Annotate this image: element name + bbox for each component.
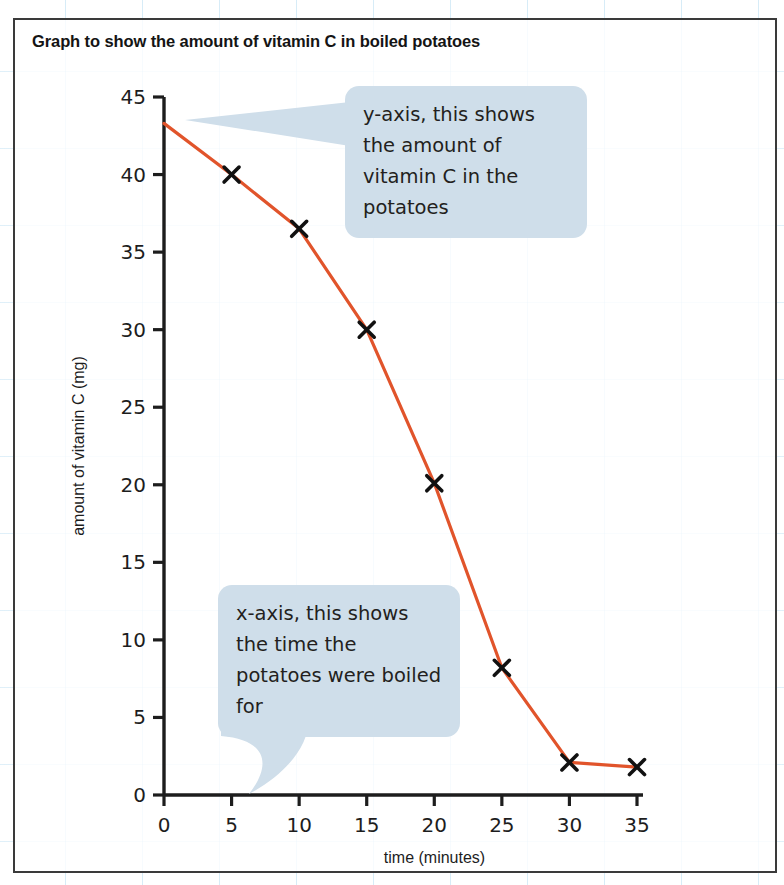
svg-text:30: 30 <box>121 318 146 342</box>
svg-text:35: 35 <box>121 240 146 264</box>
svg-text:5: 5 <box>133 705 146 729</box>
svg-text:5: 5 <box>225 813 238 837</box>
x-axis-callout: x-axis, this shows the time the potatoes… <box>218 585 460 737</box>
svg-text:15: 15 <box>121 550 146 574</box>
svg-text:20: 20 <box>121 473 146 497</box>
y-axis-title: amount of vitamin C (mg) <box>70 356 87 536</box>
svg-text:0: 0 <box>158 813 171 837</box>
svg-text:20: 20 <box>422 813 447 837</box>
svg-text:40: 40 <box>121 163 146 187</box>
svg-text:35: 35 <box>624 813 649 837</box>
x-axis-title: time (minutes) <box>384 849 485 866</box>
svg-text:10: 10 <box>286 813 311 837</box>
svg-text:45: 45 <box>121 85 146 109</box>
svg-text:25: 25 <box>121 395 146 419</box>
svg-text:10: 10 <box>121 628 146 652</box>
svg-text:30: 30 <box>557 813 582 837</box>
y-axis-callout: y-axis, this shows the amount of vitamin… <box>345 86 587 238</box>
svg-text:25: 25 <box>489 813 514 837</box>
svg-text:15: 15 <box>354 813 379 837</box>
svg-text:0: 0 <box>133 783 146 807</box>
y-axis-callout-tail-icon <box>180 100 360 160</box>
